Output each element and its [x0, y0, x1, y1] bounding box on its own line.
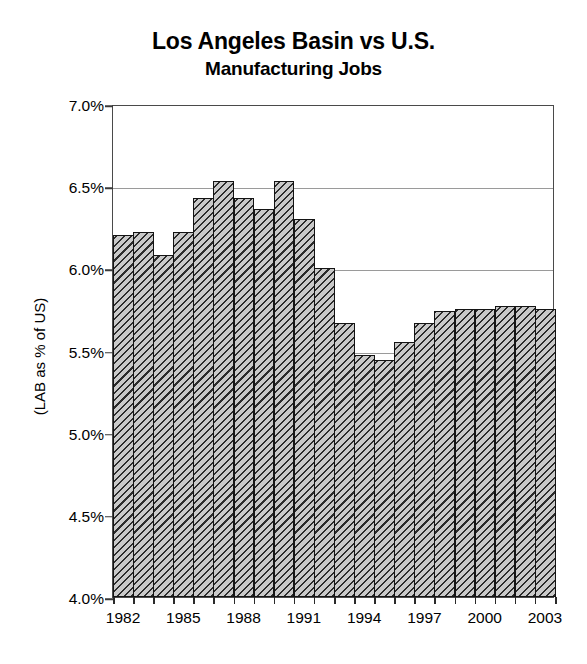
x-tick-mark [374, 597, 376, 604]
bar [535, 309, 556, 597]
x-tick-mark [394, 597, 396, 604]
bar [394, 342, 415, 597]
bar [274, 181, 295, 597]
chart-subtitle: Manufacturing Jobs [0, 57, 587, 81]
y-tick-label: 5.5% [69, 344, 113, 362]
x-tick-mark [535, 597, 537, 604]
x-tick-label: 1985 [166, 609, 200, 627]
bar [254, 209, 275, 597]
y-tick-label: 7.0% [69, 97, 113, 115]
bar [193, 198, 214, 597]
y-tick-label: 5.0% [69, 426, 113, 444]
x-tick-mark [334, 597, 336, 604]
chart-title-block: Los Angeles Basin vs U.S. Manufacturing … [0, 28, 587, 81]
x-tick-label: 1994 [347, 609, 381, 627]
x-tick-mark [455, 597, 457, 604]
plot-area: 7.0%6.5%6.0%5.5%5.0%4.5%4.0% 19821985198… [112, 105, 554, 598]
bar [434, 311, 455, 597]
x-tick-mark [354, 597, 356, 604]
x-tick-mark [234, 597, 236, 604]
y-tick-label: 4.5% [69, 508, 113, 526]
x-tick-label: 1997 [407, 609, 441, 627]
bar [354, 355, 375, 597]
bar [234, 198, 255, 597]
x-tick-mark [213, 597, 215, 604]
y-tick-label: 6.0% [69, 261, 113, 279]
bar [213, 181, 234, 597]
bar [515, 306, 536, 597]
bar [133, 232, 154, 597]
x-tick-mark [495, 597, 497, 604]
x-tick-mark [515, 597, 517, 604]
chart-title: Los Angeles Basin vs U.S. [0, 28, 587, 55]
x-tick-label: 2000 [467, 609, 501, 627]
bar [495, 306, 516, 597]
x-tick-mark [294, 597, 296, 604]
bar [334, 323, 355, 597]
bar [475, 309, 496, 597]
y-tick-label: 6.5% [69, 179, 113, 197]
x-tick-label: 2003 [528, 609, 562, 627]
x-tick-label: 1988 [226, 609, 260, 627]
y-axis-label: (LAB as % of US) [31, 257, 48, 457]
chart-figure: Los Angeles Basin vs U.S. Manufacturing … [0, 0, 587, 664]
x-tick-mark [133, 597, 135, 604]
bar [113, 235, 134, 597]
bar [414, 323, 435, 597]
bar [455, 309, 476, 597]
y-tick-label: 4.0% [69, 590, 113, 608]
x-tick-mark [475, 597, 477, 604]
x-tick-mark [153, 597, 155, 604]
x-tick-mark [274, 597, 276, 604]
x-tick-mark [555, 597, 557, 604]
x-tick-mark [254, 597, 256, 604]
bar [374, 360, 395, 597]
x-tick-mark [193, 597, 195, 604]
x-tick-label: 1991 [287, 609, 321, 627]
x-tick-mark [414, 597, 416, 604]
x-tick-mark [113, 597, 115, 604]
bar [173, 232, 194, 597]
bar [294, 219, 315, 597]
bar [153, 255, 174, 597]
x-tick-mark [314, 597, 316, 604]
x-tick-mark [434, 597, 436, 604]
bar [314, 268, 335, 597]
x-tick-mark [173, 597, 175, 604]
x-tick-label: 1982 [106, 609, 140, 627]
